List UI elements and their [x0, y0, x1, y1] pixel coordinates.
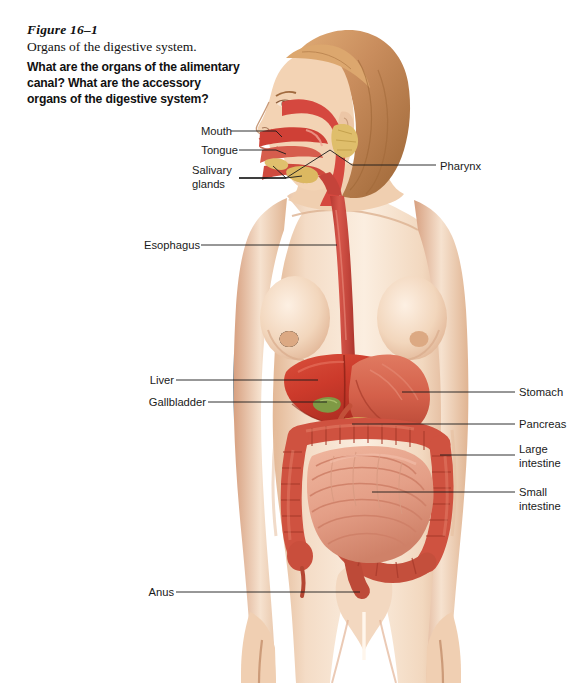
label-salivary-glands: Salivary glands — [150, 163, 280, 191]
digestive-system-illustration — [0, 0, 585, 683]
right-areola — [410, 331, 429, 347]
label-anus: Anus — [110, 585, 174, 599]
label-pharynx: Pharynx — [440, 159, 481, 173]
label-esophagus: Esophagus — [110, 238, 200, 252]
label-gallbladder: Gallbladder — [110, 395, 206, 409]
waist-shading-left — [273, 430, 276, 536]
label-small-intestine: Small intestine — [519, 485, 561, 513]
left-areola-2 — [280, 331, 299, 347]
label-tongue: Tongue — [150, 143, 238, 157]
label-stomach: Stomach — [519, 385, 563, 399]
right-breast — [377, 276, 447, 360]
label-liver: Liver — [110, 373, 174, 387]
cecum — [287, 541, 313, 571]
label-large-intestine: Large intestine — [519, 442, 561, 470]
figure-page: Figure 16–1 Organs of the digestive syst… — [0, 0, 585, 683]
label-pancreas: Pancreas — [519, 417, 566, 431]
left-breast — [260, 276, 330, 360]
label-mouth: Mouth — [150, 124, 232, 138]
